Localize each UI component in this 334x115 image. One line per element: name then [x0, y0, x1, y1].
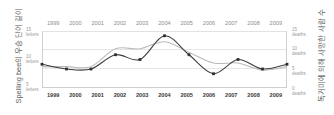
right-tick: 5 deaths — [292, 67, 306, 77]
year-label-top: 2009 — [265, 20, 287, 26]
left-axis-ticks: 15 letters 10 letters 5 letters — [26, 0, 42, 115]
right-tick-unit: deaths — [292, 52, 306, 57]
series-layer — [42, 31, 287, 88]
left-tick: 10 letters — [26, 55, 39, 65]
year-label-top: 2001 — [87, 20, 109, 26]
year-label-top: 2000 — [64, 20, 86, 26]
spelling-bee-markers — [41, 34, 289, 75]
year-label-bottom: 2009 — [265, 92, 287, 98]
right-tick: 15 deaths — [292, 28, 306, 38]
right-tick-unit: deaths — [292, 33, 306, 38]
left-axis-title: Spelling bee의 우승 단어 길이 — [12, 8, 23, 104]
year-label-bottom: 2002 — [109, 92, 131, 98]
year-label-top: 2008 — [242, 20, 264, 26]
data-point-marker — [163, 34, 166, 37]
year-label-bottom: 2004 — [153, 92, 175, 98]
data-point-marker — [237, 58, 240, 61]
left-tick-unit: letters — [26, 33, 39, 38]
right-tick: 10 deaths — [292, 47, 306, 57]
year-label-top: 2007 — [220, 20, 242, 26]
year-label-bottom: 1999 — [42, 92, 64, 98]
year-label-bottom: 2007 — [220, 92, 242, 98]
year-label-bottom: 2006 — [198, 92, 220, 98]
data-point-marker — [90, 68, 93, 71]
year-label-bottom: 2005 — [176, 92, 198, 98]
data-point-marker — [114, 53, 117, 56]
year-label-top: 2002 — [109, 20, 131, 26]
right-tick-unit: deaths — [292, 72, 306, 77]
right-axis-ticks: 15 deaths 10 deaths 5 deaths 0 deaths — [292, 0, 318, 115]
year-label-bottom: 2003 — [131, 92, 153, 98]
year-label-top: 2004 — [153, 20, 175, 26]
year-label-top: 2003 — [131, 20, 153, 26]
year-label-top: 2005 — [176, 20, 198, 26]
data-point-marker — [286, 63, 289, 66]
year-label-bottom: 2001 — [87, 92, 109, 98]
bottom-year-axis: 1999 2000 2001 2002 2003 2004 2005 2006 … — [42, 92, 287, 98]
left-tick: 5 letters — [26, 83, 39, 93]
data-point-marker — [139, 58, 142, 61]
year-label-top: 1999 — [42, 20, 64, 26]
year-label-bottom: 2008 — [242, 92, 264, 98]
year-label-bottom: 2000 — [64, 92, 86, 98]
data-point-marker — [212, 72, 215, 75]
data-point-marker — [65, 68, 68, 71]
spider-deaths-line — [42, 42, 287, 71]
data-point-marker — [261, 68, 264, 71]
data-point-marker — [188, 53, 191, 56]
dual-axis-line-chart: Spelling bee의 우승 단어 길이 독거미에 의해 사망한 사람 수 … — [0, 0, 334, 115]
right-tick: 0 deaths — [292, 87, 306, 97]
left-tick: 15 letters — [26, 28, 39, 38]
top-year-axis: 1999 2000 2001 2002 2003 2004 2005 2006 … — [42, 20, 287, 26]
right-tick-unit: deaths — [292, 92, 306, 97]
left-tick-unit: letters — [26, 88, 39, 93]
left-tick-unit: letters — [26, 60, 39, 65]
data-point-marker — [41, 63, 44, 66]
year-label-top: 2006 — [198, 20, 220, 26]
